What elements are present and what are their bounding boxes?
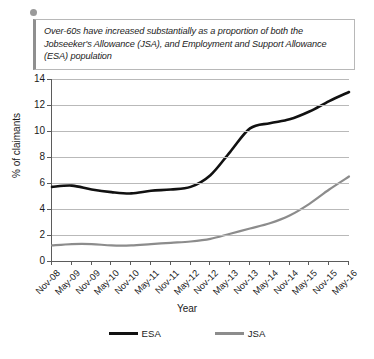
gridline <box>52 209 349 210</box>
x-axis-tick <box>328 261 329 265</box>
y-axis-tick-label: 2 <box>15 229 45 240</box>
legend-label-esa: ESA <box>142 328 161 339</box>
gridline <box>52 105 349 106</box>
gridline <box>52 157 349 158</box>
x-axis-tick <box>150 261 151 265</box>
plot-area <box>51 79 349 261</box>
x-axis-tick <box>130 261 131 265</box>
x-axis-tick <box>308 261 309 265</box>
x-axis-tick <box>71 261 72 265</box>
y-axis-tick-label: 0 <box>15 255 45 266</box>
y-axis-tick-label: 12 <box>15 99 45 110</box>
x-axis-tick <box>348 261 349 265</box>
x-axis-tick <box>110 261 111 265</box>
y-axis-tick <box>47 183 51 184</box>
y-axis-tick <box>47 79 51 80</box>
gridline <box>52 131 349 132</box>
gridline <box>52 235 349 236</box>
x-axis-tick <box>190 261 191 265</box>
line-chart: % of claimants Year ESAJSA 02468101214No… <box>0 0 374 359</box>
y-axis-tick <box>47 235 51 236</box>
legend-item-jsa[interactable]: JSA <box>215 328 266 339</box>
y-axis-tick-label: 4 <box>15 203 45 214</box>
x-axis-tick <box>289 261 290 265</box>
y-axis-tick-label: 8 <box>15 151 45 162</box>
legend-label-jsa: JSA <box>248 328 266 339</box>
legend-swatch-esa <box>109 332 138 335</box>
legend-swatch-jsa <box>215 332 244 335</box>
x-axis-tick <box>209 261 210 265</box>
chart-legend: ESAJSA <box>0 328 374 339</box>
series-lines <box>52 79 349 261</box>
y-axis-tick-label: 10 <box>15 125 45 136</box>
y-axis-tick <box>47 105 51 106</box>
legend-item-esa[interactable]: ESA <box>109 328 161 339</box>
x-axis-tick <box>229 261 230 265</box>
y-axis-tick <box>47 157 51 158</box>
x-axis-tick <box>91 261 92 265</box>
gridline <box>52 79 349 80</box>
y-axis-tick <box>47 209 51 210</box>
x-axis-tick <box>51 261 52 265</box>
x-axis-line <box>51 261 349 262</box>
gridline <box>52 183 349 184</box>
x-axis-tick <box>170 261 171 265</box>
y-axis-tick-label: 6 <box>15 177 45 188</box>
x-axis-tick <box>249 261 250 265</box>
y-axis-tick <box>47 131 51 132</box>
series-line-esa <box>52 92 349 193</box>
y-axis-tick-label: 14 <box>15 73 45 84</box>
x-axis-tick <box>269 261 270 265</box>
